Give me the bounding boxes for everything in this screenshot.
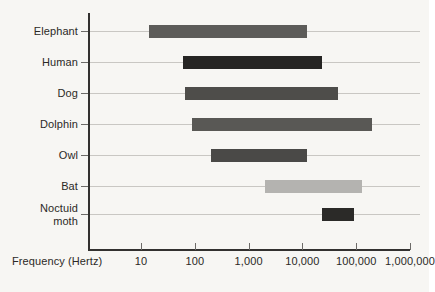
x-axis-tick <box>356 243 357 250</box>
category-label-human: Human <box>42 56 78 69</box>
range-bar-owl <box>211 149 307 162</box>
range-bar-noctuid-moth <box>322 208 354 221</box>
range-bar-dog <box>185 87 338 100</box>
x-axis-tick-label: 10 <box>135 255 147 267</box>
x-axis-tick-label: 10,000 <box>285 255 319 267</box>
category-label-elephant: Elephant <box>34 25 78 38</box>
x-axis-tick-label: 100,000 <box>336 255 376 267</box>
category-gridline <box>90 214 420 215</box>
category-label-noctuid-moth: Noctuid moth <box>40 202 78 227</box>
x-axis-tick <box>141 243 142 250</box>
x-axis-tick-label: 100 <box>185 255 204 267</box>
x-axis-tick-label: 1,000 <box>235 255 263 267</box>
range-bar-dolphin <box>192 118 372 131</box>
range-bar-elephant <box>149 25 307 38</box>
category-label-dog: Dog <box>58 87 78 100</box>
x-axis-tick-label: 1,000,000 <box>385 255 435 267</box>
range-bar-human <box>183 56 322 69</box>
x-axis-title: Frequency (Hertz) <box>12 255 102 267</box>
y-axis-line <box>88 13 90 251</box>
x-axis-tick <box>302 243 303 250</box>
x-axis-tick <box>410 243 411 250</box>
category-gridline <box>90 186 420 187</box>
category-label-bat: Bat <box>61 180 78 193</box>
category-label-owl: Owl <box>59 149 78 162</box>
range-bar-bat <box>265 180 363 193</box>
x-axis-tick <box>249 243 250 250</box>
category-label-dolphin: Dolphin <box>40 118 78 131</box>
x-axis-tick <box>195 243 196 250</box>
